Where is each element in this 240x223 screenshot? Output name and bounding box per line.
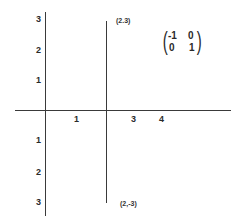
y-label-1: 1 [36, 76, 41, 85]
y-label-neg-2: 2 [36, 168, 41, 177]
y-label-3: 3 [36, 15, 41, 24]
y-label-neg-1: 1 [36, 136, 41, 145]
x-axis [15, 110, 231, 111]
y-label-neg-3: 3 [36, 198, 41, 207]
point-label-top: (2.3) [116, 17, 130, 24]
x-label-4: 4 [159, 115, 164, 124]
point-label-bottom: (2,-3) [120, 200, 137, 207]
matrix-cell-0-0: -1 [168, 31, 177, 41]
matrix-cell-1-1: 1 [189, 43, 195, 53]
y-axis [45, 12, 46, 216]
matrix-left-paren: ( [163, 29, 168, 54]
x-label-1: 1 [74, 115, 79, 124]
vertical-segment-x2 [106, 21, 107, 203]
matrix-cell-0-1: 0 [188, 31, 194, 41]
matrix-cell-1-0: 0 [169, 43, 175, 53]
matrix-right-paren: ) [197, 29, 202, 54]
y-label-2: 2 [36, 46, 41, 55]
reflection-matrix: ( -1 0 0 1 ) [163, 29, 203, 55]
x-label-3: 3 [131, 115, 136, 124]
